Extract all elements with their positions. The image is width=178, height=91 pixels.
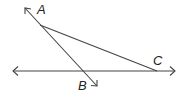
geometry-diagram: A B C <box>0 0 178 91</box>
segment-ac <box>40 25 157 71</box>
line-ab <box>25 8 97 86</box>
label-a: A <box>36 2 46 17</box>
horizontal-line <box>13 67 175 76</box>
label-b: B <box>78 78 87 91</box>
label-c: C <box>153 53 163 68</box>
